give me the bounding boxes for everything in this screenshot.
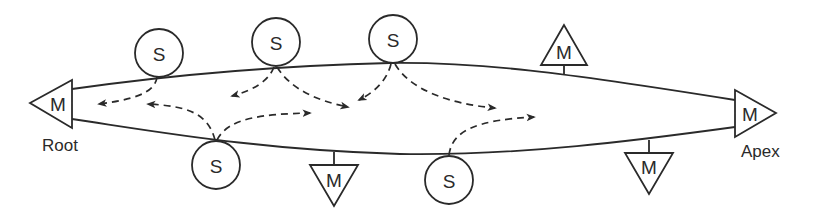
m-node-letter: M [326, 170, 342, 191]
s-node: S [252, 18, 300, 66]
s-node: S [369, 15, 417, 63]
s-node: S [192, 141, 240, 189]
s-node: S [135, 29, 183, 77]
apex-label: Apex [741, 142, 780, 161]
s-node-letter: S [210, 156, 223, 177]
m-node-letter: M [556, 42, 572, 63]
apex-m-letter: M [742, 104, 758, 125]
root-modulator-node: M [30, 80, 72, 128]
dashed-arrow [359, 64, 391, 100]
lower-boundary-line [72, 119, 735, 154]
root-apex-diagram: M Root M Apex S S S S S M M [0, 0, 816, 210]
m-node-bottom: M [310, 152, 358, 206]
dashed-arrow [277, 67, 348, 107]
s-node-letter: S [270, 33, 283, 54]
dashed-arrow [395, 64, 495, 108]
m-node-top: M [541, 25, 587, 74]
m-node-letter: M [641, 157, 657, 178]
s-node: S [425, 156, 473, 204]
s-node-letter: S [387, 30, 400, 51]
s-node-letter: S [153, 44, 166, 65]
apex-modulator-node: M [735, 90, 776, 137]
dashed-arrow [217, 113, 310, 140]
s-node-letter: S [443, 171, 456, 192]
root-label: Root [42, 136, 78, 155]
dashed-arrow [449, 117, 534, 155]
m-node-bottom: M [625, 140, 673, 194]
root-m-letter: M [50, 94, 66, 115]
